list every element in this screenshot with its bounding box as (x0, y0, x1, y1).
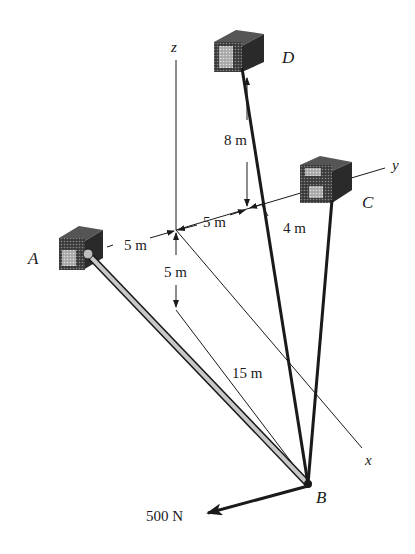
x-axis-label: x (365, 453, 372, 468)
dim-label-z-drop: 5 m (164, 265, 187, 280)
offset-line (176, 310, 308, 484)
dim-label-x-length: 15 m (232, 366, 262, 381)
cable-bc (308, 200, 332, 484)
point-label-c: C (362, 194, 373, 211)
statics-diagram: z y x D C A B 8 m 5 m 5 m 4 m 5 m 15 m 5… (0, 0, 415, 554)
boom-ab-fill (88, 254, 308, 484)
support-block-c (300, 156, 352, 203)
dim-label-a-origin: 5 m (124, 238, 147, 253)
dim-arrow-origin-y (178, 225, 197, 230)
y-axis-label: y (392, 158, 399, 173)
dim-label-d-height: 8 m (224, 133, 247, 148)
dim-label-origin-y: 5 m (203, 215, 226, 230)
dim-label-y-to-c: 4 m (283, 221, 306, 236)
x-axis (176, 230, 362, 448)
diagram-canvas (0, 0, 415, 554)
support-block-d (214, 30, 264, 72)
point-label-d: D (282, 49, 294, 66)
z-axis-label: z (171, 40, 177, 55)
dim-arrow-y-mark (230, 210, 245, 215)
boom-socket-a (83, 249, 93, 259)
load-arrow (208, 486, 308, 513)
load-label: 500 N (146, 509, 183, 524)
dim-line-a (107, 245, 113, 247)
point-label-a: A (28, 250, 38, 267)
point-label-b: B (316, 489, 326, 506)
dim-arrow-a-origin (150, 231, 174, 238)
